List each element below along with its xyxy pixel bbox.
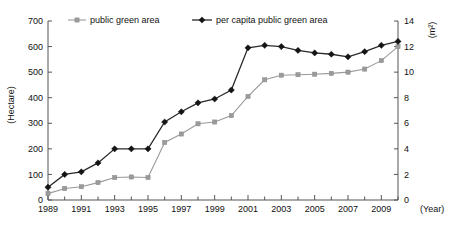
data-point-per-capita-public-green-area [195, 100, 201, 106]
y2-axis-tick-label: 0 [404, 195, 409, 205]
data-point-public-green-area [363, 67, 367, 71]
y2-axis-unit-label: (m²) [427, 22, 437, 39]
data-point-public-green-area [146, 175, 150, 179]
data-point-per-capita-public-green-area [178, 109, 184, 115]
y2-axis-tick-label: 14 [404, 16, 414, 26]
data-point-per-capita-public-green-area [278, 43, 284, 49]
data-point-public-green-area [279, 73, 283, 77]
y2-axis-tick-label: 4 [404, 144, 409, 154]
x-axis-tick-label: 1999 [205, 204, 225, 214]
legend-marker-per-capita-public-green-area [199, 17, 205, 23]
data-point-per-capita-public-green-area [128, 146, 134, 152]
x-axis-tick-label: 2007 [338, 204, 358, 214]
legend-label-per-capita-public-green-area: per capita public green area [216, 15, 328, 25]
x-axis-tick-label: 1993 [105, 204, 125, 214]
line-chart: 0100200300400500600700024681012141989199… [0, 0, 458, 234]
y-axis-tick-label: 600 [28, 42, 43, 52]
data-point-per-capita-public-green-area [312, 50, 318, 56]
x-axis-tick-label: 1989 [38, 204, 58, 214]
y-axis-tick-label: 700 [28, 16, 43, 26]
x-axis-tick-label: 1997 [171, 204, 191, 214]
y2-axis-tick-label: 12 [404, 42, 414, 52]
data-point-per-capita-public-green-area [362, 49, 368, 55]
data-point-public-green-area [213, 120, 217, 124]
data-point-public-green-area [296, 73, 300, 77]
data-point-per-capita-public-green-area [262, 42, 268, 48]
y-axis-tick-label: 300 [28, 118, 43, 128]
series-line-public-green-area [48, 47, 398, 194]
data-point-public-green-area [179, 132, 183, 136]
x-axis-tick-label: 2003 [271, 204, 291, 214]
y-axis-tick-label: 100 [28, 170, 43, 180]
y2-axis-tick-label: 10 [404, 67, 414, 77]
data-point-public-green-area [346, 70, 350, 74]
data-point-per-capita-public-green-area [145, 146, 151, 152]
data-point-public-green-area [129, 175, 133, 179]
data-point-per-capita-public-green-area [295, 47, 301, 53]
data-point-public-green-area [229, 114, 233, 118]
y2-axis-tick-label: 6 [404, 118, 409, 128]
x-axis-tick-label: 2001 [238, 204, 258, 214]
chart-container: 0100200300400500600700024681012141989199… [0, 0, 458, 234]
data-point-per-capita-public-green-area [395, 38, 401, 44]
series-line-per-capita-public-green-area [48, 41, 398, 187]
x-axis-tick-label: 1995 [138, 204, 158, 214]
data-point-public-green-area [163, 140, 167, 144]
data-point-public-green-area [46, 192, 50, 196]
y2-axis-tick-label: 8 [404, 93, 409, 103]
data-point-per-capita-public-green-area [245, 45, 251, 51]
y-axis-tick-label: 200 [28, 144, 43, 154]
x-axis-tick-label: 1991 [71, 204, 91, 214]
left-bottom-axis [48, 21, 398, 200]
data-point-public-green-area [96, 181, 100, 185]
data-point-public-green-area [246, 94, 250, 98]
data-point-per-capita-public-green-area [378, 42, 384, 48]
data-point-public-green-area [196, 122, 200, 126]
data-point-public-green-area [396, 44, 400, 48]
data-point-per-capita-public-green-area [228, 87, 234, 93]
data-point-public-green-area [63, 186, 67, 190]
y-axis-tick-label: 500 [28, 67, 43, 77]
data-point-per-capita-public-green-area [212, 96, 218, 102]
data-point-per-capita-public-green-area [328, 51, 334, 57]
x-axis-unit-label: (Year) [420, 204, 444, 214]
data-point-public-green-area [263, 78, 267, 82]
y-axis-unit-label: (Hectare) [6, 86, 16, 124]
data-point-per-capita-public-green-area [162, 119, 168, 125]
data-point-public-green-area [329, 71, 333, 75]
x-axis-tick-label: 2009 [371, 204, 391, 214]
y2-axis-tick-label: 2 [404, 170, 409, 180]
y-axis-tick-label: 400 [28, 93, 43, 103]
data-point-per-capita-public-green-area [78, 169, 84, 175]
data-point-public-green-area [113, 175, 117, 179]
legend-marker-public-green-area [75, 18, 79, 22]
data-point-public-green-area [379, 59, 383, 63]
legend-label-public-green-area: public green area [90, 15, 160, 25]
data-point-public-green-area [79, 185, 83, 189]
x-axis-tick-label: 2005 [305, 204, 325, 214]
data-point-per-capita-public-green-area [345, 54, 351, 60]
data-point-public-green-area [313, 72, 317, 76]
